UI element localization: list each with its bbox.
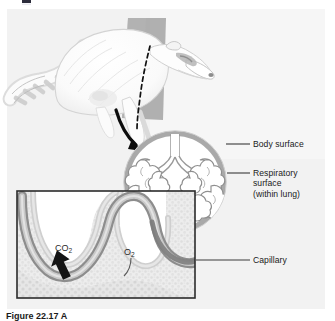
respiration-diagram-figure: Body surface Respiratory surface (within…: [0, 0, 335, 321]
label-body-surface: Body surface: [253, 139, 304, 149]
label-respiratory-line-1: Respiratory: [253, 168, 300, 178]
label-o2: O2: [124, 247, 135, 258]
o2-subscript: 2: [131, 251, 135, 258]
top-edge-artifact: [22, 0, 31, 5]
label-respiratory-surface: Respiratory surface (within lung): [253, 168, 300, 199]
label-co2: CO2: [55, 243, 72, 254]
co2-subscript: 2: [69, 247, 73, 254]
label-respiratory-line-2: surface: [253, 178, 300, 188]
figure-caption: Figure 22.17 A: [6, 311, 67, 321]
diagram-canvas: [0, 0, 335, 321]
label-capillary: Capillary: [253, 255, 287, 265]
label-respiratory-line-3: (within lung): [253, 189, 300, 199]
alveolus-inset: [17, 190, 206, 298]
